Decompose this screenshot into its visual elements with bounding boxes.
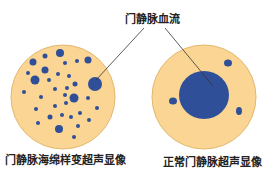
vessel: [64, 101, 68, 105]
vessel: [88, 77, 102, 91]
vessel: [60, 113, 64, 117]
vessel: [65, 86, 69, 90]
vessel: [42, 67, 49, 74]
vessel: [34, 107, 38, 111]
vessel: [36, 121, 40, 125]
normal-portal-vein-panel: [152, 45, 256, 149]
vessel: [48, 115, 53, 120]
vessel: [22, 90, 26, 94]
vessel: [169, 98, 177, 105]
vessel: [72, 135, 76, 139]
vessel: [53, 104, 57, 108]
vessel: [85, 57, 92, 64]
vessel: [56, 72, 60, 76]
tissue-cross-section: [11, 45, 115, 149]
vessel: [67, 74, 71, 78]
vessel: [63, 61, 67, 65]
vessel: [236, 107, 242, 115]
vessel: [86, 96, 90, 100]
portal-vein-flow-label: 门静脉血流: [125, 10, 180, 26]
vessel: [56, 49, 64, 57]
vessel: [224, 60, 232, 67]
vessel: [43, 54, 48, 59]
vessel: [179, 71, 229, 119]
vessel: [69, 115, 73, 119]
vessel: [55, 125, 63, 133]
vessel: [53, 87, 57, 91]
vessel: [76, 124, 80, 128]
vessel: [39, 95, 43, 99]
vessel: [78, 111, 82, 115]
vessel: [75, 59, 79, 63]
vessel: [47, 78, 51, 82]
vessel: [95, 106, 99, 110]
vessel: [70, 94, 79, 103]
vessel: [87, 118, 91, 122]
vessel: [26, 71, 30, 75]
vessel: [31, 76, 40, 85]
vessel: [30, 59, 37, 66]
vessel: [73, 82, 78, 87]
vessel: [63, 93, 67, 97]
leader-line: [96, 28, 144, 80]
cavernous-transformation-caption: 门静脉海绵样变超声显像: [5, 151, 126, 167]
cavernous-transformation-panel: [11, 45, 115, 149]
normal-portal-vein-caption: 正常门静脉超声显像: [163, 153, 262, 169]
